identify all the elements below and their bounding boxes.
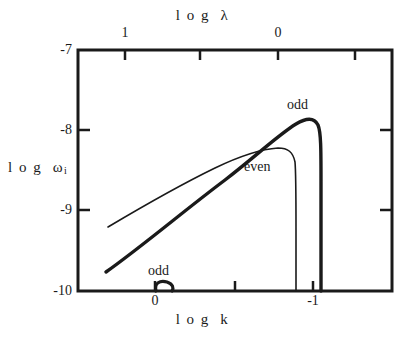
plot-canvas <box>0 0 405 342</box>
right-axis-ticks <box>380 130 391 210</box>
curve-even <box>108 148 296 291</box>
curve-odd <box>106 119 321 291</box>
left-axis-ticks <box>79 130 90 210</box>
bottom-axis-ticks <box>155 281 313 290</box>
figure-panel: l o g λ l o g ωi l o g k 1 0 0 -1 -7 -8 … <box>0 0 405 342</box>
top-axis-ticks <box>125 51 355 60</box>
